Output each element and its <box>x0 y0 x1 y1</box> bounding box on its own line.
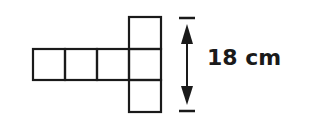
net-square-1 <box>33 49 65 80</box>
net-square-bottom <box>129 80 161 112</box>
dimension-label: 18 cm <box>207 45 281 70</box>
arrowhead-down-icon <box>181 86 193 105</box>
net-square-3 <box>97 49 129 80</box>
dimension-arrow <box>179 18 195 111</box>
net-square-4 <box>129 49 161 80</box>
net-square-2 <box>65 49 97 80</box>
arrowhead-up-icon <box>181 24 193 44</box>
net-square-top <box>129 17 161 49</box>
